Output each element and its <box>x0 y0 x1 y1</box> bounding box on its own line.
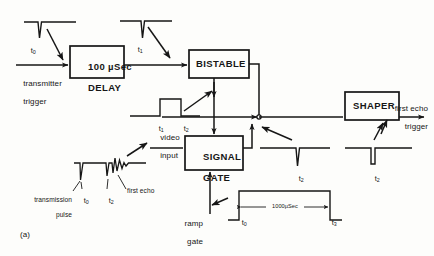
time-mark-t1-gate-sub: 1 <box>161 128 164 134</box>
time-mark-t2-gate: t2 <box>175 117 189 143</box>
time-mark-t3-ramp: t3 <box>323 211 337 237</box>
time-mark-t1-gate: t1 <box>150 117 164 143</box>
time-mark-t0-transmitter: t0 <box>22 39 36 65</box>
time-mark-t2-gate-output-sub: 2 <box>301 178 304 184</box>
annotation-first-echo: first echo <box>127 187 154 194</box>
annotation-duration-1000usec: 1000µSec <box>272 203 298 209</box>
annotation-transmission-pulse: transmission pulse <box>27 189 72 226</box>
waveform-video-input <box>74 158 146 180</box>
time-mark-t0-transmitter-sub: 0 <box>33 50 36 56</box>
waveform-gate-output <box>260 148 330 166</box>
time-mark-t0-ramp-sub: 0 <box>244 222 247 228</box>
block-label-signal-gate: SIGNAL GATE <box>191 141 241 194</box>
leader-t2-video <box>107 179 108 189</box>
port-label-ramp-gate-line1: ramp <box>184 219 203 228</box>
pointer-bistable-gate <box>184 91 212 111</box>
pointer-video-input <box>127 143 147 156</box>
port-label-transmitter-trigger-line2: trigger <box>23 97 46 106</box>
block-label-delay-line1: 100 µSec <box>88 61 132 72</box>
annotation-transmission-pulse-line2: pulse <box>56 211 72 218</box>
pointer-delayed-trigger <box>148 27 170 58</box>
waveform-shaper-output <box>345 148 412 164</box>
port-label-first-echo-trigger-line1: first echo <box>395 104 428 113</box>
time-mark-t2-shaper-output-sub: 2 <box>377 178 380 184</box>
port-label-ramp-gate: ramp gate <box>175 211 203 256</box>
port-label-first-echo-trigger: first echo trigger <box>386 96 428 141</box>
port-label-ramp-gate-line2: gate <box>187 237 203 246</box>
pointer-transmitter-trigger <box>47 29 63 60</box>
figure-caption: (a) <box>20 231 30 240</box>
time-mark-t0-ramp: t0 <box>233 211 247 237</box>
block-label-delay: 100 µSec DELAY <box>76 51 132 104</box>
time-mark-t2-video-sub: 2 <box>111 200 114 206</box>
figure-echo-ranging-block-diagram: 100 µSec DELAY BISTABLE SIGNAL GATE SHAP… <box>0 0 434 256</box>
pointer-gate-output <box>262 127 292 140</box>
port-label-video-input-line2: input <box>160 151 178 160</box>
time-mark-t2-gate-output: t2 <box>290 167 304 193</box>
leader-t0-video <box>81 182 82 189</box>
time-mark-t1-delayed: t1 <box>129 38 143 64</box>
block-label-delay-line2: DELAY <box>88 82 121 93</box>
time-mark-t2-gate-sub: 2 <box>186 128 189 134</box>
pointer-ramp-gate <box>212 198 228 205</box>
port-label-first-echo-trigger-line2: trigger <box>405 122 428 131</box>
time-mark-t1-delayed-sub: 1 <box>140 49 143 55</box>
leader-first-echo <box>118 175 126 189</box>
time-mark-t0-video-sub: 0 <box>86 200 89 206</box>
port-label-transmitter-trigger-line1: transmitter <box>23 79 62 88</box>
wire-gate-out-to-node <box>243 124 252 148</box>
time-mark-t3-ramp-sub: 3 <box>334 222 337 228</box>
port-label-transmitter-trigger: transmitter trigger <box>14 71 62 116</box>
wire-bistable-out-to-node <box>249 64 259 117</box>
time-mark-t2-shaper-output: t2 <box>366 167 380 193</box>
annotation-transmission-pulse-line1: transmission <box>34 196 72 203</box>
block-label-bistable: BISTABLE <box>196 59 246 70</box>
time-mark-t2-video: t2 <box>100 189 114 215</box>
waveform-delayed-trigger <box>120 21 172 38</box>
block-label-signal-gate-line1: SIGNAL <box>203 151 241 162</box>
time-mark-t0-video: t0 <box>75 189 89 215</box>
block-label-signal-gate-line2: GATE <box>203 172 230 183</box>
